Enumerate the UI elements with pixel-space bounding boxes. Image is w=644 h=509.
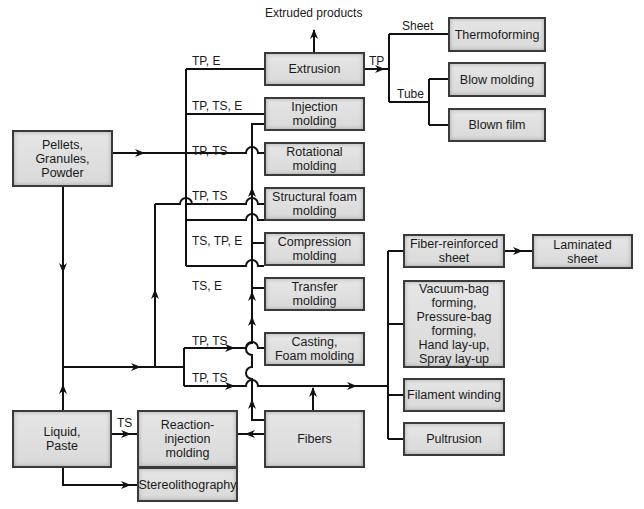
label-extrusion-output: TP — [369, 55, 384, 67]
label-compression-input: TS, TP, E — [192, 235, 242, 247]
node-bag-forming-layup: Vacuum-bag forming, Pressure-bag forming… — [403, 280, 505, 368]
label-extruded-products: Extruded products — [265, 7, 362, 19]
label-reaction-input: TS — [117, 417, 132, 429]
label-sheet: Sheet — [402, 20, 433, 32]
label-composite-input: TP, TS — [192, 372, 228, 384]
node-reaction-injection-molding: Reaction- injection molding — [137, 410, 238, 468]
label-injection-input: TP, TS, E — [192, 100, 242, 112]
node-fiber-reinforced-sheet: Fiber-reinforced sheet — [403, 234, 505, 268]
label-rotational-input: TP, TS — [192, 145, 228, 157]
node-structural-foam-molding: Structural foam molding — [264, 187, 365, 221]
node-injection-molding: Injection molding — [264, 97, 365, 131]
node-rotational-molding: Rotational molding — [264, 142, 365, 176]
label-extrusion-input: TP, E — [192, 55, 220, 67]
node-pultrusion: Pultrusion — [403, 422, 505, 456]
node-blow-molding: Blow molding — [448, 62, 546, 97]
node-blown-film: Blown film — [448, 108, 546, 142]
node-filament-winding: Filament winding — [403, 378, 505, 412]
node-stereolithography: Stereolithography — [137, 467, 238, 502]
node-transfer-molding: Transfer molding — [264, 277, 365, 311]
label-structural-input: TP, TS — [192, 190, 228, 202]
label-casting-input: TP, TS — [192, 335, 228, 347]
node-fibers: Fibers — [264, 410, 365, 468]
node-extrusion: Extrusion — [264, 52, 365, 86]
label-tube: Tube — [397, 88, 424, 100]
node-pellets: Pellets, Granules, Powder — [12, 130, 113, 187]
node-laminated-sheet: Laminated sheet — [532, 234, 633, 269]
node-compression-molding: Compression molding — [264, 232, 365, 266]
node-casting-foam-molding: Casting, Foam molding — [264, 332, 365, 366]
node-thermoforming: Thermoforming — [448, 17, 546, 52]
node-liquid-paste: Liquid, Paste — [12, 410, 112, 468]
label-transfer-input: TS, E — [192, 280, 222, 292]
